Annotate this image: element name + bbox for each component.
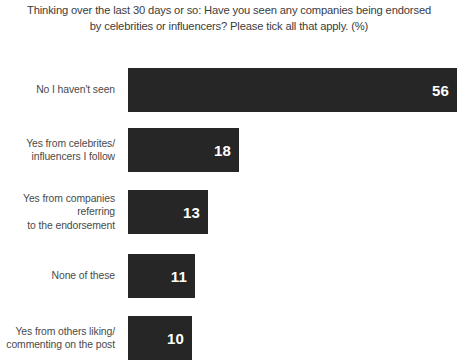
bar-value-label: 18: [214, 143, 231, 158]
bar-row: Yes from celebrites/ influencers I follo…: [0, 128, 457, 172]
bar-row: No I haven't seen 56: [0, 68, 457, 112]
bar-segment[interactable]: 13: [128, 190, 208, 234]
category-label: Yes from celebrites/ influencers I follo…: [0, 128, 122, 172]
bar-value-label: 56: [432, 83, 449, 98]
bar-segment[interactable]: 11: [128, 254, 195, 298]
category-label: Yes from companies referring to the endo…: [0, 190, 122, 234]
bar-track: 10: [128, 316, 457, 360]
bar-track: 13: [128, 190, 457, 234]
bar-row: Yes from others liking/ commenting on th…: [0, 316, 457, 360]
category-label: None of these: [0, 254, 122, 298]
bar-row: Yes from companies referring to the endo…: [0, 190, 457, 234]
bar-row: None of these 11: [0, 254, 457, 298]
bar-value-label: 11: [171, 269, 187, 284]
bar-value-label: 13: [183, 205, 200, 220]
bar-segment[interactable]: 56: [128, 68, 457, 112]
bar-chart: Thinking over the last 30 days or so: Ha…: [0, 0, 457, 363]
bar-track: 18: [128, 128, 457, 172]
category-label: No I haven't seen: [0, 68, 122, 112]
bar-track: 11: [128, 254, 457, 298]
plot-area: No I haven't seen 56 Yes from celebrites…: [0, 60, 457, 363]
bar-track: 56: [128, 68, 457, 112]
bar-value-label: 10: [167, 331, 184, 346]
chart-title: Thinking over the last 30 days or so: Ha…: [22, 3, 436, 34]
bar-segment[interactable]: 10: [128, 316, 192, 360]
bar-segment[interactable]: 18: [128, 128, 239, 172]
category-label: Yes from others liking/ commenting on th…: [0, 316, 122, 360]
